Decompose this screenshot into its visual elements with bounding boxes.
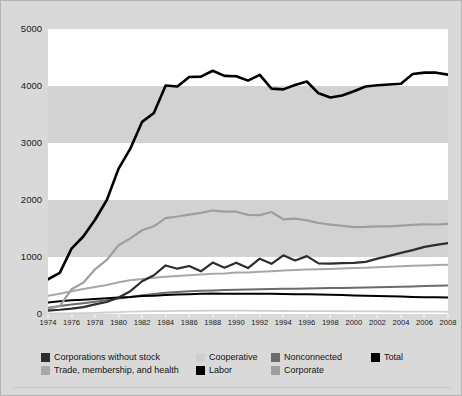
- x-tick-label: 1974: [40, 319, 57, 327]
- legend-swatch-icon: [196, 366, 205, 375]
- series-line-corporations-without-stock: [48, 243, 448, 311]
- x-tick-label: 2002: [369, 319, 386, 327]
- legend-label: Labor: [209, 366, 232, 375]
- series-line-total: [48, 71, 448, 280]
- x-tick-label: 1998: [322, 319, 339, 327]
- plot-area: [48, 29, 448, 314]
- legend-swatch-icon: [271, 353, 280, 362]
- legend-item[interactable]: Total: [371, 351, 403, 364]
- legend-row-2: Trade, membership, and healthLaborCorpor…: [41, 364, 441, 377]
- x-tick-label: 2004: [392, 319, 409, 327]
- x-tick-label: 1984: [157, 319, 174, 327]
- chart-figure: 500040003000200010000 197419761978198019…: [0, 0, 462, 396]
- legend-label: Corporate: [284, 366, 324, 375]
- legend-item[interactable]: Nonconnected: [271, 351, 342, 364]
- series-line-cooperative: [48, 311, 448, 314]
- x-tick-label: 1982: [134, 319, 151, 327]
- x-tick-label: 1980: [110, 319, 127, 327]
- x-tick-label: 1990: [228, 319, 245, 327]
- legend-swatch-icon: [371, 353, 380, 362]
- legend-swatch-icon: [41, 366, 50, 375]
- y-axis: 500040003000200010000: [1, 29, 46, 314]
- x-tick-label: 1996: [298, 319, 315, 327]
- x-tick-label: 1986: [181, 319, 198, 327]
- legend-swatch-icon: [271, 366, 280, 375]
- legend-item[interactable]: Cooperative: [196, 351, 258, 364]
- x-tick-label: 1978: [87, 319, 104, 327]
- y-tick-label: 1000: [21, 252, 42, 262]
- legend-label: Trade, membership, and health: [54, 366, 179, 375]
- series-svg: [48, 29, 448, 314]
- x-tick-label: 1976: [63, 319, 80, 327]
- legend-item[interactable]: Corporate: [271, 364, 324, 377]
- legend-label: Cooperative: [209, 353, 258, 362]
- series-line-trade-membership-and-health: [48, 265, 448, 296]
- chart-legend: Corporations without stockCooperativeNon…: [41, 351, 441, 377]
- y-tick-label: 2000: [21, 195, 42, 205]
- x-axis: 1974197619781980198219841986198819901992…: [48, 315, 448, 331]
- x-tick-label: 2000: [345, 319, 362, 327]
- legend-swatch-icon: [196, 353, 205, 362]
- x-tick-label: 1992: [251, 319, 268, 327]
- series-container: [48, 29, 448, 314]
- y-tick-label: 3000: [21, 138, 42, 148]
- legend-item[interactable]: Labor: [196, 364, 232, 377]
- legend-item[interactable]: Corporations without stock: [41, 351, 160, 364]
- y-tick-label: 4000: [21, 81, 42, 91]
- x-tick-label: 1988: [204, 319, 221, 327]
- y-tick-label: 5000: [21, 24, 42, 34]
- legend-label: Total: [384, 353, 403, 362]
- legend-row-1: Corporations without stockCooperativeNon…: [41, 351, 441, 364]
- x-tick-label: 2008: [440, 319, 457, 327]
- x-tick-label: 1994: [275, 319, 292, 327]
- legend-label: Nonconnected: [284, 353, 342, 362]
- footer-rule: [13, 387, 451, 388]
- x-tick-label: 2006: [416, 319, 433, 327]
- legend-swatch-icon: [41, 353, 50, 362]
- legend-label: Corporations without stock: [54, 353, 160, 362]
- legend-item[interactable]: Trade, membership, and health: [41, 364, 179, 377]
